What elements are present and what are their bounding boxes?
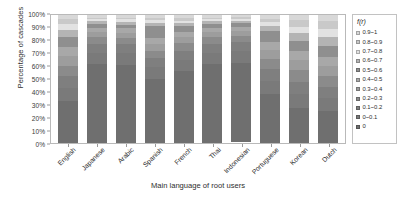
legend-item[interactable]: 0.4~0.5 xyxy=(356,75,394,84)
bar-column[interactable] xyxy=(174,15,194,143)
bar-segment xyxy=(289,82,309,95)
x-axis-title: Main language of root users xyxy=(50,181,346,190)
bar-segment xyxy=(318,46,338,58)
legend-item[interactable]: 0.8~0.9 xyxy=(356,38,394,47)
x-tick-mark xyxy=(68,144,69,147)
bar-column[interactable] xyxy=(58,15,78,143)
bar-segment xyxy=(260,59,280,69)
bar-segment xyxy=(202,64,222,143)
bar-segment xyxy=(260,69,280,81)
x-tick-label: Korean xyxy=(288,146,308,166)
legend-swatch xyxy=(356,59,360,63)
bar-segment xyxy=(116,65,136,143)
x-tick-label: Japanese xyxy=(80,146,106,172)
bar-segment xyxy=(260,94,280,143)
bar-segment xyxy=(174,60,194,72)
legend-title: f(r) xyxy=(357,18,394,26)
x-tick-label: English xyxy=(56,146,77,167)
legend-label: 0.1~0.2 xyxy=(362,103,382,112)
bar-column[interactable] xyxy=(116,15,136,143)
bar-column[interactable] xyxy=(318,15,338,143)
bar-segment xyxy=(87,53,107,65)
bar-segment xyxy=(289,94,309,108)
y-tick-label: 70% xyxy=(32,50,45,57)
x-tick-mark xyxy=(126,144,127,147)
y-tick-label: 40% xyxy=(32,89,45,96)
bar-segment xyxy=(145,51,165,59)
legend-item[interactable]: 0.1~0.2 xyxy=(356,103,394,112)
legend-swatch xyxy=(356,31,360,35)
bar-segment xyxy=(289,33,309,41)
legend-label: 0.3~0.4 xyxy=(362,85,382,94)
legend-item[interactable]: 0~0.1 xyxy=(356,113,394,122)
bar-segment xyxy=(289,51,309,60)
legend-item[interactable]: 0 xyxy=(356,122,394,131)
bar-segment xyxy=(174,71,194,143)
bar-column[interactable] xyxy=(289,15,309,143)
bar-segment xyxy=(260,50,280,59)
bar-segment xyxy=(58,47,78,56)
legend-label: 0.2~0.3 xyxy=(362,94,382,103)
x-tick-mark xyxy=(97,144,98,147)
legend: f(r) 0.9~10.8~0.90.7~0.80.6~0.70.5~0.60.… xyxy=(352,14,397,144)
x-tick-mark xyxy=(213,144,214,147)
bar-segment xyxy=(58,76,78,88)
bar-segment xyxy=(145,79,165,143)
bar-segment xyxy=(58,101,78,143)
legend-item[interactable]: 0.9~1 xyxy=(356,28,394,37)
bar-segment xyxy=(260,42,280,50)
bar-segment xyxy=(318,98,338,111)
bar-segment xyxy=(318,76,338,86)
bar-column[interactable] xyxy=(145,15,165,143)
bar-segment xyxy=(145,26,165,38)
legend-item[interactable]: 0.5~0.6 xyxy=(356,66,394,75)
bar-segment xyxy=(318,111,338,143)
bar-segment xyxy=(289,60,309,70)
bar-segment xyxy=(231,42,251,51)
bar-segment xyxy=(318,21,338,29)
legend-item[interactable]: 0.7~0.8 xyxy=(356,47,394,56)
x-tick-label: French xyxy=(173,146,193,166)
y-tick-label: 60% xyxy=(32,63,45,70)
legend-label: 0~0.1 xyxy=(362,113,377,122)
bar-segment xyxy=(58,56,78,66)
bar-column[interactable] xyxy=(231,15,251,143)
bar-segment xyxy=(87,44,107,53)
bar-segment xyxy=(260,31,280,43)
legend-swatch xyxy=(356,125,360,129)
legend-swatch xyxy=(356,68,360,72)
legend-item[interactable]: 0.3~0.4 xyxy=(356,85,394,94)
bar-segment xyxy=(174,51,194,60)
bar-segment xyxy=(116,53,136,65)
legend-swatch xyxy=(356,40,360,44)
legend-label: 0.6~0.7 xyxy=(362,56,382,65)
bar-segment xyxy=(260,81,280,94)
bar-column[interactable] xyxy=(260,15,280,143)
bar-segment xyxy=(289,70,309,82)
x-tick-label: Spanish xyxy=(141,146,163,168)
plot-area xyxy=(50,14,346,144)
x-tick-mark xyxy=(271,144,272,147)
bar-segment xyxy=(58,66,78,76)
bar-segment xyxy=(145,58,165,67)
legend-item[interactable]: 0.2~0.3 xyxy=(356,94,394,103)
bar-column[interactable] xyxy=(87,15,107,143)
bar-segment xyxy=(289,108,309,143)
x-tick-label: Arabic xyxy=(116,146,135,165)
x-tick-mark xyxy=(242,144,243,147)
bar-segment xyxy=(174,43,194,51)
stacked-bars xyxy=(51,15,345,143)
legend-label: 0 xyxy=(362,122,365,131)
y-tick-label: 0% xyxy=(35,141,45,148)
y-tick-label: 80% xyxy=(32,37,45,44)
legend-swatch xyxy=(356,50,360,54)
bar-segment xyxy=(58,88,78,101)
bar-segment xyxy=(202,53,222,65)
bar-column[interactable] xyxy=(202,15,222,143)
bar-segment xyxy=(202,44,222,53)
y-tick-label: 10% xyxy=(32,128,45,135)
y-tick-label: 90% xyxy=(32,24,45,31)
legend-item[interactable]: 0.6~0.7 xyxy=(356,56,394,65)
bar-segment xyxy=(231,51,251,63)
legend-label: 0.9~1 xyxy=(362,28,377,37)
